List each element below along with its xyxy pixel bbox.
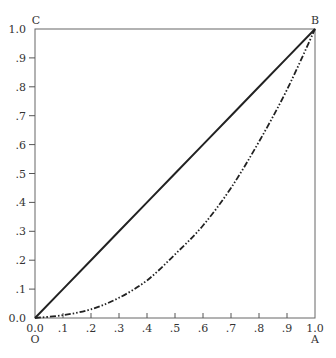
y-tick-label: .1 xyxy=(16,283,27,296)
x-tick-label: .7 xyxy=(226,322,237,335)
x-tick-label: .6 xyxy=(198,322,209,335)
x-tick-label: .9 xyxy=(282,322,293,335)
corner-label-c: C xyxy=(32,14,40,27)
lorenz-chart: 0.0.1.2.3.4.5.6.7.8.91.0 0.0.1.2.3.4.5.6… xyxy=(0,0,336,358)
x-tick-label: .2 xyxy=(86,322,97,335)
corner-label-origin: O xyxy=(30,333,39,346)
y-tick-label: 0.0 xyxy=(9,312,27,325)
x-tick-label: .4 xyxy=(142,322,153,335)
x-tick-label: .3 xyxy=(114,322,125,335)
y-tick-label: .9 xyxy=(16,52,27,65)
x-tick-label: .5 xyxy=(170,322,181,335)
y-tick-label: .8 xyxy=(16,81,27,94)
corner-label-a: A xyxy=(310,333,320,346)
y-tick-label: .7 xyxy=(16,110,27,123)
corner-label-b: B xyxy=(311,14,319,27)
y-tick-label: .2 xyxy=(16,254,27,267)
x-tick-label: .1 xyxy=(58,322,69,335)
y-tick-label: .6 xyxy=(16,139,27,152)
x-axis-ticks: 0.0.1.2.3.4.5.6.7.8.91.0 xyxy=(26,313,324,335)
y-tick-label: .4 xyxy=(16,196,27,209)
y-tick-label: 1.0 xyxy=(9,23,27,36)
y-tick-label: .5 xyxy=(16,168,27,181)
equality-line xyxy=(35,29,315,318)
y-tick-label: .3 xyxy=(16,225,27,238)
x-tick-label: .8 xyxy=(254,322,265,335)
y-axis-ticks: 0.0.1.2.3.4.5.6.7.8.91.0 xyxy=(9,23,36,325)
